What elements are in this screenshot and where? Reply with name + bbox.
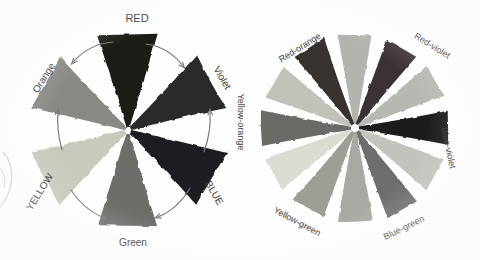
left-wheel-label-green: Green <box>119 238 147 248</box>
figure-canvas: REDVioletBLUEGreenYELLOWOrange Red-viole… <box>0 0 480 260</box>
left-wheel-label-red: RED <box>125 13 148 24</box>
right-wheel-label-yellow-orange: Yellow-orange <box>236 94 245 151</box>
